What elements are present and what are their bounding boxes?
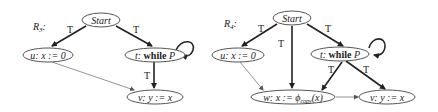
graph-title-r3: R3:	[32, 21, 46, 34]
graph-r4: R4: T T T T T Start u: x := 0 t: while P	[212, 11, 415, 104]
edge-u-w	[240, 62, 263, 90]
edge-t-self-loop	[369, 39, 385, 55]
svg-text:Start: Start	[282, 13, 302, 24]
edge-label: T	[258, 23, 264, 34]
svg-text:t: while P: t: while P	[320, 49, 360, 60]
svg-text:Start: Start	[91, 15, 111, 26]
edge-label: T	[328, 64, 334, 75]
graph-r3: R3: T T T Start u: x := 0 t: while P v: …	[23, 13, 193, 104]
edge-label: T	[325, 23, 331, 34]
edge-label: T	[144, 70, 150, 81]
svg-text:u: x := 0: u: x := 0	[220, 50, 255, 61]
node-start: Start	[82, 13, 120, 27]
node-u: u: x := 0	[23, 48, 73, 62]
svg-text:v: y := x: v: y := x	[138, 92, 173, 103]
graph-title-r4: R4:	[223, 18, 237, 31]
node-w: w: x := ϕcopy(x)	[251, 90, 335, 104]
node-u: u: x := 0	[212, 48, 264, 62]
edge-label: T	[133, 24, 139, 35]
edge-label: T	[278, 38, 284, 49]
edge-label: T	[67, 24, 73, 35]
svg-text:t: while P: t: while P	[135, 50, 175, 61]
svg-text:u: x := 0: u: x := 0	[30, 50, 65, 61]
node-v: v: y := x	[359, 90, 415, 104]
node-t: t: while P	[125, 48, 185, 62]
edge-label: T	[363, 64, 369, 75]
node-v: v: y := x	[127, 90, 183, 104]
svg-text:w: x := ϕcopy(x): w: x := ϕcopy(x)	[263, 92, 323, 104]
node-start: Start	[273, 11, 311, 25]
svg-text:v: y := x: v: y := x	[370, 92, 405, 103]
diagram-canvas: R3: T T T Start u: x := 0 t: while P v: …	[0, 0, 438, 112]
node-t: t: while P	[311, 47, 369, 61]
edge-u-v	[52, 62, 134, 90]
